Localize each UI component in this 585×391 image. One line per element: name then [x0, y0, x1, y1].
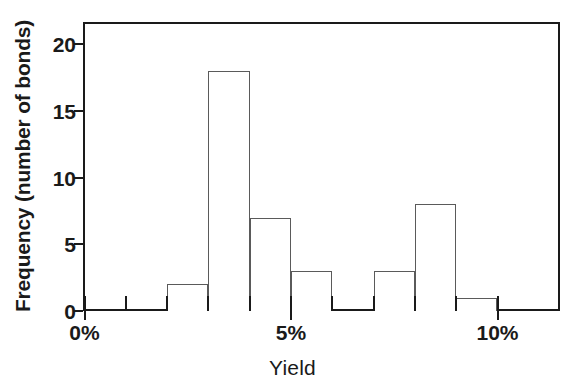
- plot-area-frame: [83, 22, 560, 311]
- y-tick-label-0: 0: [36, 301, 76, 322]
- x-tick-mark-5: [290, 296, 292, 320]
- x-tick-label-5%: 5%: [246, 322, 336, 343]
- x-tick-mark-9: [455, 296, 457, 311]
- x-tick-mark-8: [414, 296, 416, 311]
- x-tick-mark-2: [166, 296, 168, 311]
- x-tick-mark-4: [249, 296, 251, 311]
- y-tick-label-10: 10: [36, 167, 76, 188]
- y-tick-mark-20: [74, 43, 83, 45]
- x-axis-title: Yield: [0, 356, 585, 380]
- y-tick-label-5: 5: [36, 234, 76, 255]
- x-tick-mark-0: [84, 296, 86, 320]
- histogram-figure: Frequency (number of bonds) 05101520 0%5…: [0, 0, 585, 391]
- y-tick-mark-5: [74, 243, 83, 245]
- y-tick-mark-10: [74, 177, 83, 179]
- y-tick-mark-15: [74, 110, 83, 112]
- x-tick-mark-6: [331, 296, 333, 311]
- y-tick-label-15: 15: [36, 100, 76, 121]
- y-tick-mark-0: [74, 310, 83, 312]
- x-tick-label-0%: 0%: [40, 322, 130, 343]
- x-tick-label-10%: 10%: [453, 322, 543, 343]
- x-tick-mark-1: [125, 296, 127, 311]
- x-tick-mark-10: [497, 296, 499, 320]
- x-tick-mark-3: [207, 296, 209, 311]
- x-tick-mark-7: [373, 296, 375, 311]
- y-tick-label-20: 20: [36, 34, 76, 55]
